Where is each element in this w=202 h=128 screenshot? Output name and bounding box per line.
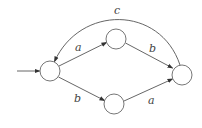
edge-label-a-lower: a	[148, 94, 155, 107]
state-q1	[106, 29, 126, 49]
edge-label-a-upper: a	[75, 41, 82, 54]
state-q2	[104, 94, 124, 114]
edge-label-b-lower: b	[74, 92, 81, 105]
state-q3	[172, 65, 192, 85]
edge-q0-q2	[59, 77, 105, 101]
edge-label-c: c	[114, 4, 120, 17]
state-q0	[40, 61, 60, 81]
edge-q0-q1	[59, 43, 107, 67]
automaton-diagram: c a b b a	[0, 0, 202, 128]
edge-label-b-upper: b	[149, 42, 156, 55]
